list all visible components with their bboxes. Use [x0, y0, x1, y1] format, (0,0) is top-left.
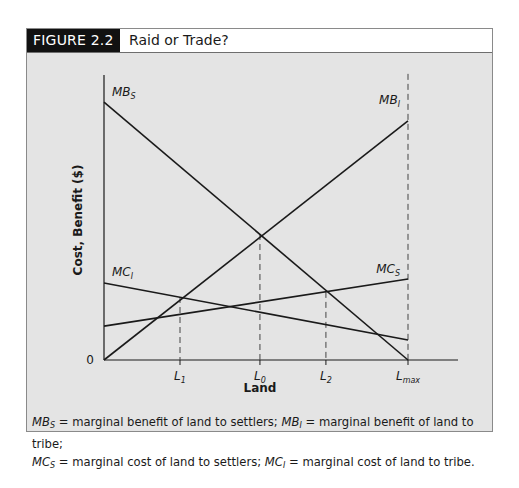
curve-mc-i	[104, 283, 408, 340]
series-label-mb-i: MBI	[379, 93, 401, 109]
figure-caption: MBS = marginal benefit of land to settle…	[32, 413, 492, 475]
series-label-mc-i: MCI	[112, 265, 134, 281]
x-tick-label-l1: L1	[174, 369, 186, 385]
curve-mc-s	[104, 279, 408, 326]
series-label-mc-s: MCS	[376, 262, 400, 278]
caption-symbol: MB	[281, 415, 299, 429]
plot-area: MBSMBIMCSMCIL1L0L2Lmax0LandCost, Benefit…	[71, 74, 458, 395]
x-tick-label-lmax: Lmax	[396, 369, 420, 385]
caption-text: = marginal benefit of land to settlers;	[55, 415, 281, 429]
caption-symbol: MC	[32, 455, 50, 469]
x-axis-label: Land	[244, 381, 277, 395]
curve-mb-i	[104, 121, 408, 360]
caption-line-2: MCS = marginal cost of land to settlers;…	[32, 453, 492, 475]
caption-symbol: MB	[32, 415, 50, 429]
x-tick-label-l2: L2	[320, 369, 332, 385]
caption-line-1: MBS = marginal benefit of land to settle…	[32, 413, 492, 453]
series-label-mb-s: MBS	[112, 85, 136, 101]
caption-text: = marginal cost of land to tribe.	[285, 455, 474, 469]
y-axis-label: Cost, Benefit ($)	[71, 165, 85, 276]
caption-text: = marginal cost of land to settlers;	[55, 455, 265, 469]
caption-symbol: MC	[265, 455, 283, 469]
curve-mb-s	[104, 102, 408, 360]
origin-label: 0	[86, 353, 94, 367]
